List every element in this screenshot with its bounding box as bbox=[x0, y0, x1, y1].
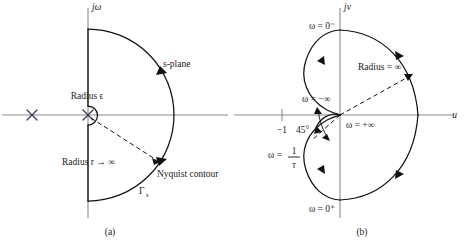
gamma-symbol: Γ bbox=[139, 186, 145, 196]
arrow-lower-right-b bbox=[395, 170, 404, 179]
label-radius-r-infinity: Radius r → ∞ bbox=[62, 157, 115, 167]
gamma-subscript: s bbox=[146, 191, 149, 198]
omega-corner-denominator: τ bbox=[292, 160, 296, 170]
figure-root: jω s-plane Radius ϵ Radius r → ∞ bbox=[0, 0, 464, 245]
arrow-lower-left-b bbox=[317, 165, 325, 174]
label-omega-plus-infinity: ω = +∞ bbox=[346, 120, 375, 130]
radius-dashed-line-a bbox=[91, 118, 158, 161]
label-omega-zero-minus: ω = 0⁻ bbox=[309, 21, 335, 31]
label-radius-epsilon: Radius ϵ bbox=[71, 91, 104, 101]
axis-label-jomega: jω bbox=[90, 2, 102, 12]
panel-a-s-plane: jω s-plane Radius ϵ Radius r → ∞ bbox=[0, 0, 232, 245]
omega-corner-numerator: 1 bbox=[292, 146, 297, 156]
label-omega-zero-plus: ω = 0⁺ bbox=[309, 204, 335, 214]
label-omega-corner: ω = 1 τ bbox=[268, 146, 300, 170]
label-radius-infinity-b: Radius = ∞ bbox=[358, 62, 401, 72]
radius-arrowhead-b bbox=[404, 74, 413, 81]
label-minus-one: −1 bbox=[277, 125, 287, 135]
angle-arc-45 bbox=[318, 110, 328, 138]
angle-arrow-top bbox=[314, 107, 322, 114]
axis-label-u: u bbox=[452, 110, 457, 120]
label-nyquist-contour: Nyquist contour bbox=[157, 169, 219, 179]
caption-b: (b) bbox=[356, 227, 367, 238]
angle-arrow-bottom bbox=[322, 134, 330, 141]
caption-a: (a) bbox=[105, 227, 116, 238]
panel-b-g-plane: jv u −1 ω = 0⁻ ω = −∞ bbox=[232, 0, 464, 245]
label-gamma-s: Γ s bbox=[139, 186, 149, 198]
arrow-upper-right-b bbox=[395, 51, 404, 60]
arrow-upper-left-b bbox=[317, 56, 325, 65]
omega-corner-prefix: ω = bbox=[268, 150, 282, 160]
axis-label-jv: jv bbox=[342, 2, 352, 12]
label-45-degrees: 45° bbox=[296, 125, 310, 135]
locus-upper-right-arc bbox=[340, 30, 418, 115]
label-s-plane: s-plane bbox=[163, 59, 190, 69]
label-omega-minus-infinity: ω = −∞ bbox=[302, 94, 331, 104]
radius-dashed-line-b bbox=[340, 76, 410, 115]
